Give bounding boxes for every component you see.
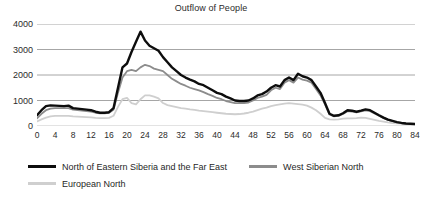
legend-label: European North: [62, 179, 126, 189]
y-axis-tick-label: 3000: [0, 45, 33, 55]
legend-swatch-icon: [28, 182, 56, 185]
legend-swatch-icon: [249, 165, 277, 168]
x-axis-tick-label: 28: [158, 130, 167, 140]
x-axis-tick-label: 60: [302, 130, 311, 140]
x-axis-tick-label: 24: [140, 130, 149, 140]
y-axis-labels: 01000200030004000: [0, 18, 33, 134]
series-line: [37, 65, 415, 124]
x-axis-tick-label: 84: [410, 130, 419, 140]
x-axis-tick-label: 64: [320, 130, 329, 140]
x-axis-tick-label: 76: [374, 130, 383, 140]
x-axis-tick-label: 36: [194, 130, 203, 140]
series-line: [37, 32, 415, 124]
legend-item-west-siberian-north[interactable]: West Siberian North: [249, 162, 363, 172]
x-axis-tick-label: 16: [104, 130, 113, 140]
y-axis-tick-label: 1000: [0, 96, 33, 106]
series-lines: [37, 32, 415, 125]
plot-area: [37, 24, 415, 126]
chart-title: Outflow of People: [0, 3, 422, 13]
x-axis-tick-label: 0: [35, 130, 40, 140]
y-axis-tick-label: 0: [0, 121, 33, 131]
legend-row-primary: North of Eastern Siberia and the Far Eas…: [28, 158, 420, 175]
x-axis-tick-label: 8: [71, 130, 76, 140]
y-axis-tick-label: 4000: [0, 19, 33, 29]
chart-container: Outflow of People 01000200030004000 0481…: [0, 0, 422, 203]
legend-item-european-north[interactable]: European North: [28, 179, 126, 189]
chart-legend: North of Eastern Siberia and the Far Eas…: [28, 158, 420, 192]
chart-plot-svg: [37, 24, 415, 126]
legend-label: North of Eastern Siberia and the Far Eas…: [62, 162, 227, 172]
x-axis-tick-label: 48: [248, 130, 257, 140]
x-axis-tick-label: 52: [266, 130, 275, 140]
x-axis-tick-label: 72: [356, 130, 365, 140]
x-axis-tick-label: 20: [122, 130, 131, 140]
x-axis-labels: 0481216202428323640444852566064687276808…: [37, 130, 415, 144]
legend-item-north-of-eastern-siberia[interactable]: North of Eastern Siberia and the Far Eas…: [28, 162, 227, 172]
x-axis-tick-label: 80: [392, 130, 401, 140]
x-axis-tick-label: 32: [176, 130, 185, 140]
legend-row-secondary: European North: [28, 175, 420, 192]
legend-swatch-icon: [28, 165, 56, 168]
x-axis-tick-label: 44: [230, 130, 239, 140]
y-axis-tick-label: 2000: [0, 70, 33, 80]
x-axis-tick-label: 56: [284, 130, 293, 140]
x-axis-tick-label: 12: [86, 130, 95, 140]
x-axis-tick-label: 68: [338, 130, 347, 140]
x-axis-tick-label: 40: [212, 130, 221, 140]
x-axis-tick-label: 4: [53, 130, 58, 140]
legend-label: West Siberian North: [283, 162, 363, 172]
